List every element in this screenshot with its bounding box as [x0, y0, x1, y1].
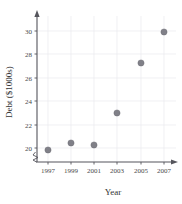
- x-tick-label-1997: 1997: [41, 167, 56, 175]
- y-tick-label-24: 24: [25, 98, 33, 106]
- data-point-1999: [68, 140, 74, 146]
- y-axis-arrowhead: [34, 10, 39, 17]
- x-tick-labels: 1997 1999 2001 2003 2005 2007: [41, 167, 172, 175]
- x-axis-arrowhead: [171, 159, 178, 164]
- data-points: [45, 29, 167, 153]
- x-tick-label-2003: 2003: [110, 167, 125, 175]
- gridlines-horizontal: [37, 31, 176, 148]
- data-point-2005: [138, 60, 144, 66]
- x-tick-label-2001: 2001: [87, 167, 102, 175]
- y-tick-labels: 30 28 26 24 22 20: [25, 28, 33, 153]
- x-tick-label-2007: 2007: [157, 167, 172, 175]
- y-tick-label-22: 22: [25, 122, 33, 130]
- data-point-2001: [91, 142, 97, 148]
- data-point-2003: [114, 110, 120, 116]
- y-tick-label-28: 28: [25, 51, 33, 59]
- x-axis-title: Year: [105, 187, 122, 197]
- x-axis: [36, 159, 178, 164]
- y-tick-label-26: 26: [25, 75, 33, 83]
- x-tick-label-2005: 2005: [134, 167, 149, 175]
- y-tick-label-30: 30: [25, 28, 33, 36]
- y-axis-title: Debt ($1000s): [4, 66, 14, 118]
- y-tick-label-20: 20: [25, 145, 33, 153]
- chart-canvas: 30 28 26 24 22 20 1997 1999 2001 2003 20…: [0, 0, 182, 204]
- data-point-1997: [45, 147, 51, 153]
- scatter-chart: 30 28 26 24 22 20 1997 1999 2001 2003 20…: [0, 0, 182, 204]
- x-tick-label-1999: 1999: [64, 167, 79, 175]
- y-axis: [34, 10, 39, 162]
- gridlines-vertical: [48, 16, 164, 162]
- data-point-2007: [161, 29, 167, 35]
